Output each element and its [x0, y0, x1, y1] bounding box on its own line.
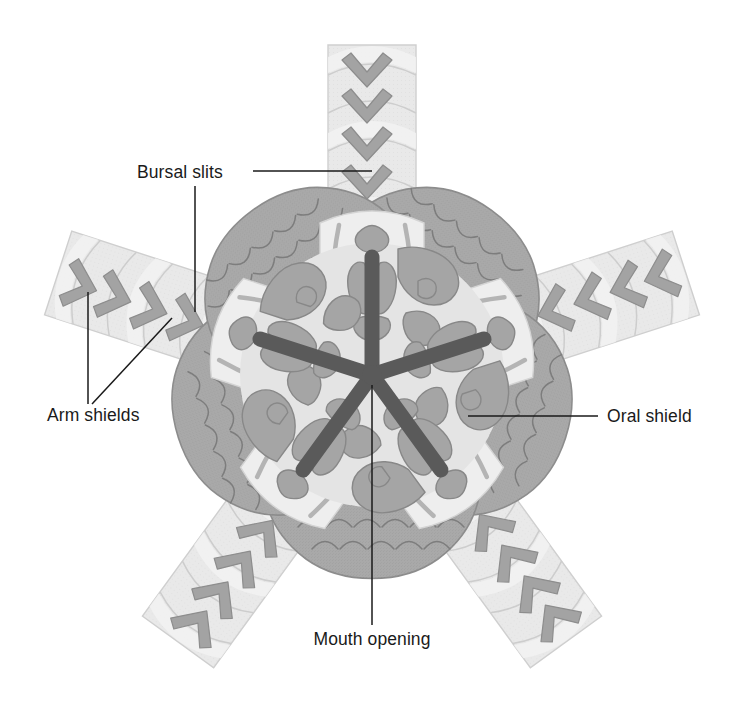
label-text-bursal-slits: Bursal slits — [137, 162, 223, 182]
label-text-oral-shield: Oral shield — [607, 406, 692, 426]
figure-canvas: Bursal slits Arm shields Oral shield Mou… — [0, 0, 732, 713]
label-text-arm-shields: Arm shields — [47, 405, 140, 425]
ophiuroid-oral-surface-diagram: Bursal slits Arm shields Oral shield Mou… — [0, 0, 732, 713]
label-text-mouth-opening: Mouth opening — [313, 629, 430, 649]
